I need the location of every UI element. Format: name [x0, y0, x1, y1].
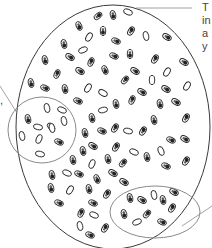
marked-organism-icon: [150, 54, 159, 65]
marked-organism-icon: [144, 152, 151, 162]
marked-organism-icon: [111, 37, 121, 45]
plain-organism-icon: [77, 221, 84, 231]
marked-organism-icon: [157, 218, 167, 226]
marked-organism-icon: [137, 195, 148, 204]
marked-organism-icon: [161, 84, 172, 93]
plain-organism-icon: [89, 211, 99, 219]
bottom-right-leader: [182, 206, 212, 226]
marked-organism-icon: [25, 114, 32, 124]
marked-organism-icon: [127, 49, 132, 58]
marked-organism-icon: [181, 113, 190, 124]
plain-organism-icon: [44, 103, 51, 113]
marked-organism-icon: [166, 136, 176, 144]
plain-organism-icon: [57, 106, 67, 114]
marked-organism-icon: [105, 154, 112, 164]
marked-organism-icon: [75, 21, 83, 31]
marked-organism-icon: [102, 189, 111, 200]
marked-organism-icon: [110, 123, 119, 134]
plain-organism-icon: [143, 31, 150, 41]
marked-organism-icon: [54, 138, 64, 146]
marked-organism-icon: [167, 203, 176, 214]
marked-organism-icon: [179, 57, 190, 66]
right-label: T in a y: [202, 1, 211, 53]
marked-organism-icon: [130, 66, 141, 75]
marked-organism-icon: [101, 65, 109, 75]
right-label-line-2: in: [202, 14, 211, 27]
marked-organism-icon: [53, 69, 61, 79]
marked-organism-icon: [127, 193, 134, 203]
plain-organism-icon: [35, 151, 45, 158]
marked-organism-icon: [75, 66, 86, 75]
marked-organism-icon: [93, 11, 104, 21]
plain-organism-icon: [149, 75, 154, 84]
marked-organism-icon: [80, 146, 87, 156]
marked-organism-icon: [138, 126, 147, 137]
marked-organism-icon: [28, 78, 35, 88]
plain-organism-icon: [61, 116, 68, 126]
marked-organism-icon: [74, 170, 84, 178]
plain-organism-icon: [49, 123, 56, 133]
marked-organism-icon: [40, 84, 50, 92]
marked-organism-icon: [88, 141, 99, 150]
left-label-fragment: ,: [0, 94, 3, 107]
plain-organism-icon: [123, 8, 133, 16]
marked-organism-icon: [160, 195, 167, 205]
marked-organism-icon: [119, 177, 130, 186]
marked-organism-icon: [111, 142, 120, 153]
marked-organism-icon: [128, 95, 136, 105]
plain-organism-icon: [62, 169, 72, 177]
population-diagram: [0, 0, 212, 248]
marked-organism-icon: [100, 26, 105, 35]
marked-organism-icon: [97, 127, 107, 135]
plain-organism-icon: [182, 81, 191, 92]
right-label-line-1: T: [202, 1, 211, 14]
marked-organism-icon: [181, 156, 190, 167]
left-label-line-1: ,: [0, 94, 3, 107]
plain-organism-icon: [157, 146, 165, 156]
marked-organism-icon: [88, 199, 98, 207]
plain-organism-icon: [88, 159, 96, 169]
marked-organism-icon: [65, 52, 76, 61]
plain-organism-icon: [84, 32, 93, 43]
marked-organism-icon: [87, 57, 95, 67]
organisms-group: [19, 8, 192, 239]
marked-organism-icon: [110, 10, 117, 20]
marked-organism-icon: [109, 52, 119, 60]
marked-organism-icon: [120, 75, 130, 86]
marked-organism-icon: [100, 223, 109, 234]
marked-organism-icon: [113, 99, 120, 109]
marked-organism-icon: [70, 155, 77, 165]
marked-organism-icon: [126, 26, 135, 37]
plain-organism-icon: [19, 131, 26, 141]
marked-organism-icon: [61, 39, 68, 49]
marked-organism-icon: [161, 162, 171, 170]
marked-organism-icon: [54, 199, 64, 207]
subgroups-group: [8, 97, 200, 238]
plain-organism-icon: [123, 128, 133, 135]
plain-organism-icon: [132, 218, 142, 226]
marked-organism-icon: [157, 99, 164, 109]
marked-organism-icon: [118, 158, 128, 169]
marked-organism-icon: [62, 84, 69, 94]
marked-organism-icon: [108, 168, 119, 177]
plain-organism-icon: [151, 190, 158, 200]
marked-organism-icon: [171, 97, 182, 106]
marked-organism-icon: [73, 97, 83, 105]
marked-organism-icon: [121, 209, 128, 219]
marked-organism-icon: [142, 209, 152, 220]
marked-organism-icon: [86, 184, 93, 194]
plain-organism-icon: [35, 134, 43, 144]
right-label-line-4: y: [202, 40, 211, 53]
plain-organism-icon: [65, 185, 74, 196]
marked-organism-icon: [93, 174, 101, 184]
marked-organism-icon: [42, 55, 49, 65]
plain-organism-icon: [98, 88, 109, 97]
right-label-line-3: a: [202, 27, 211, 40]
plain-organism-icon: [162, 67, 171, 78]
marked-organism-icon: [77, 208, 85, 218]
marked-organism-icon: [89, 113, 96, 123]
plain-organism-icon: [98, 107, 108, 114]
plain-organism-icon: [78, 46, 88, 54]
plain-organism-icon: [129, 148, 139, 156]
marked-organism-icon: [49, 170, 56, 180]
